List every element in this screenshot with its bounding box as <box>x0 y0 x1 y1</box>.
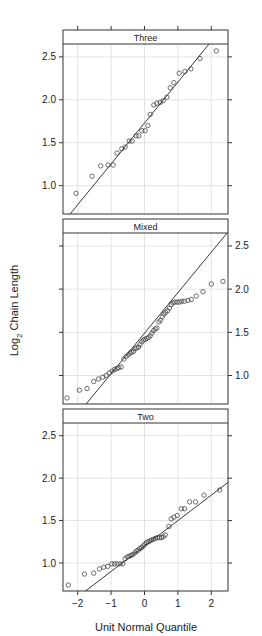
x-tick-label: 2 <box>209 598 215 609</box>
y-tick-label: 1.0 <box>42 558 56 569</box>
reference-line <box>63 21 228 223</box>
y-tick-label: 2.5 <box>235 240 249 251</box>
strip-label: Two <box>137 412 154 422</box>
y-tick-label: 2.0 <box>42 94 56 105</box>
y-axis-label: Log2 Chain Length <box>8 241 23 381</box>
y-tick-label: 1.0 <box>42 180 56 191</box>
y-tick-label: 2.0 <box>42 473 56 484</box>
y-tick-label: 1.0 <box>235 370 249 381</box>
x-tick-label: −2 <box>72 598 84 609</box>
data-points <box>65 279 225 400</box>
strip-label: Three <box>134 33 158 43</box>
x-tick-label: 1 <box>175 598 181 609</box>
panel-border <box>63 219 228 404</box>
data-points <box>74 49 219 196</box>
qq-plot-figure: Three1.01.52.02.5Mixed1.01.52.02.5Two1.0… <box>0 0 262 636</box>
y-tick-label: 2.5 <box>42 430 56 441</box>
y-tick-label: 2.0 <box>235 284 249 295</box>
y-tick-label: 2.5 <box>42 51 56 62</box>
x-axis-label: Unit Normal Quantile <box>63 621 229 633</box>
x-tick-label: −1 <box>105 598 117 609</box>
panel-two: Two1.01.52.02.5−2−1012 <box>42 409 232 609</box>
grid <box>63 233 228 404</box>
panel-border <box>63 409 228 591</box>
grid <box>63 423 228 591</box>
strip-label: Mixed <box>133 222 157 232</box>
y-tick-label: 1.5 <box>42 137 56 148</box>
panel-three: Three1.01.52.02.5 <box>42 21 232 223</box>
data-points <box>66 488 222 587</box>
grid <box>63 44 228 214</box>
x-tick-label: 0 <box>142 598 148 609</box>
y-tick-label: 1.5 <box>235 327 249 338</box>
panel-mixed: Mixed1.01.52.02.5 <box>59 219 249 432</box>
y-tick-label: 1.5 <box>42 515 56 526</box>
